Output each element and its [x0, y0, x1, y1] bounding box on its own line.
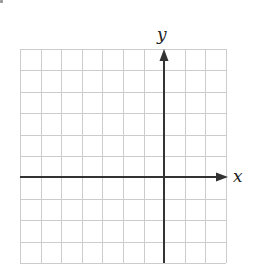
x-axis-label: x	[233, 166, 243, 186]
y-axis-label: y	[156, 24, 167, 44]
coordinate-plane-figure: x y	[0, 0, 257, 276]
grid-lines	[20, 49, 227, 264]
y-axis-arrow-icon	[160, 49, 169, 61]
coordinate-plane: x y	[0, 0, 257, 276]
